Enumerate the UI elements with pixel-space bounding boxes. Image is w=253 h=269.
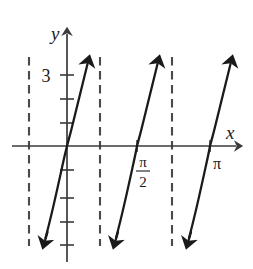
pi-over-2-numerator: π xyxy=(139,154,147,170)
y-tick-label-3: 3 xyxy=(42,66,51,86)
graph-canvas: y x 3 π 2 π xyxy=(0,0,253,269)
pi-over-2-denominator: 2 xyxy=(139,174,147,190)
function-graph-figure: y x 3 π 2 π xyxy=(0,0,253,269)
figure-background xyxy=(0,0,253,269)
y-axis-label: y xyxy=(49,23,60,44)
x-tick-label-pi: π xyxy=(213,155,221,172)
x-axis-label: x xyxy=(225,122,235,143)
